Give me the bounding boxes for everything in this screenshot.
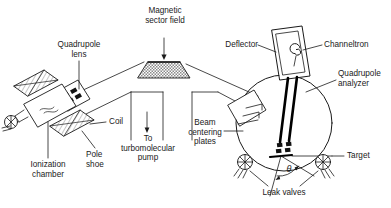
beam-centering-plates-shape (228, 90, 266, 126)
leak-valve-right-shape (316, 155, 335, 179)
quadrupole-analyzer-rods (276, 77, 297, 153)
label-to-turbomolecular-pump: To turbomolecular pump (112, 134, 184, 163)
deflector-shape (272, 26, 310, 80)
label-magnetic-sector-field: Magnetic sector field (130, 6, 200, 25)
label-channeltron: Channeltron (324, 40, 386, 50)
label-leak-valves: Leak valves (248, 188, 320, 198)
mass-spectrometer-diagram: Magnetic sector field Quadrupole lens De… (0, 0, 391, 208)
turbomolecular-pump-arrow (145, 112, 150, 133)
label-beam-centering-plates: Beam centering plates (185, 118, 225, 147)
leak-valve-left-shape (234, 155, 253, 179)
label-deflector: Deflector (206, 40, 258, 50)
label-coil: Coil (109, 117, 139, 127)
inlet-valve-shape (2, 116, 18, 132)
magnetic-sector-field-shape (138, 62, 190, 78)
label-quadrupole-lens: Quadrupole lens (42, 40, 116, 59)
label-theta-angle: θ (283, 165, 295, 175)
magnetic-sector-arrow (161, 38, 166, 60)
label-quadrupole-analyzer: Quadrupole analyzer (338, 69, 391, 88)
label-target: Target (347, 151, 387, 161)
label-ionization-chamber: Ionization chamber (12, 160, 84, 179)
